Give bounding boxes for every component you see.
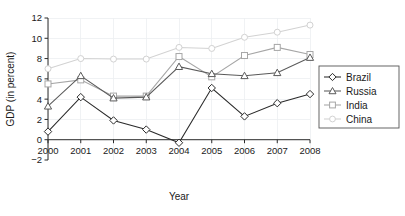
y-axis-title: GDP (in percent): [5, 52, 16, 127]
marker-circle: [111, 56, 117, 62]
x-axis-tick-label: 2006: [234, 145, 255, 156]
marker-square: [242, 53, 248, 59]
y-axis-tick-label: 6: [37, 73, 42, 84]
x-axis-tick-label: 2005: [201, 145, 222, 156]
marker-circle: [274, 29, 280, 35]
marker-square: [330, 102, 336, 108]
legend-label-russia: Russia: [346, 86, 377, 97]
gdp-line-chart: −202468101220002001200220032004200520062…: [0, 0, 405, 216]
x-axis-tick-label: 2003: [136, 145, 157, 156]
marker-square: [274, 44, 280, 50]
marker-circle: [330, 116, 336, 122]
legend-label-china: China: [346, 114, 373, 125]
marker-triangle: [77, 72, 84, 78]
marker-circle: [45, 66, 51, 72]
x-axis-title: Year: [169, 191, 190, 202]
marker-circle: [307, 22, 313, 28]
marker-square: [176, 54, 182, 60]
marker-circle: [176, 44, 182, 50]
y-axis-tick-label: 10: [31, 33, 42, 44]
x-axis-tick-label: 2000: [37, 145, 58, 156]
marker-circle: [78, 56, 84, 62]
x-axis-tick-label: 2001: [70, 145, 91, 156]
marker-circle: [143, 56, 149, 62]
marker-circle: [242, 34, 248, 40]
marker-diamond: [110, 117, 117, 124]
y-axis-tick-label: 0: [37, 134, 42, 145]
chart-canvas: −202468101220002001200220032004200520062…: [0, 0, 405, 216]
y-axis-tick-label: 8: [37, 53, 42, 64]
marker-diamond: [143, 126, 150, 133]
legend-label-india: India: [346, 100, 368, 111]
x-axis-tick-label: 2007: [267, 145, 288, 156]
legend-label-brazil: Brazil: [346, 72, 371, 83]
marker-circle: [209, 45, 215, 51]
marker-square: [45, 81, 51, 87]
x-axis-tick-label: 2008: [299, 145, 320, 156]
y-axis-tick-label: 2: [37, 114, 42, 125]
marker-diamond: [274, 100, 281, 107]
marker-triangle: [175, 63, 182, 69]
x-axis-tick-label: 2002: [103, 145, 124, 156]
marker-triangle: [274, 69, 281, 75]
y-axis-tick-label: 4: [37, 94, 42, 105]
y-axis-tick-label: 12: [31, 12, 42, 23]
legend[interactable]: BrazilRussiaIndiaChina: [319, 66, 399, 128]
marker-diamond: [306, 90, 313, 97]
